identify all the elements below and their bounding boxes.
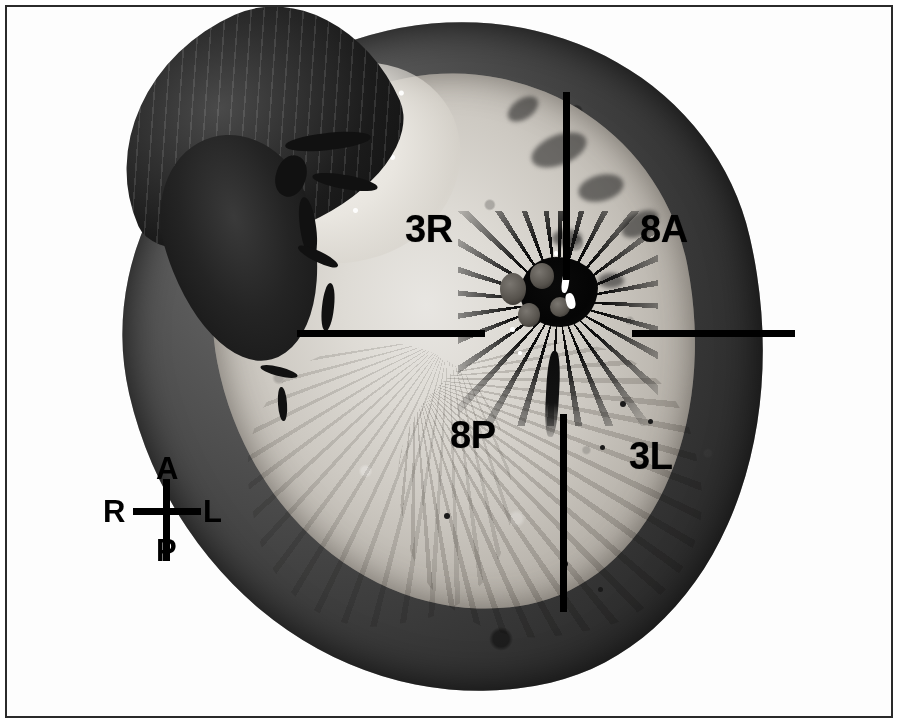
quadrant-label-lower-right: 3L (629, 437, 672, 475)
quadrant-label-upper-right: 8A (640, 210, 688, 248)
quadrant-label-lower-left: 8P (450, 416, 495, 454)
compass-label-right: R (103, 496, 125, 527)
compass-label-posterior: P (156, 535, 177, 566)
compass-cross-horizontal (133, 508, 201, 515)
photograph-plate: 3R 8A 8P 3L A R L P (7, 7, 891, 716)
figure-root: 3R 8A 8P 3L A R L P (0, 0, 903, 728)
specimen (100, 15, 800, 705)
tissue-dot (444, 513, 450, 519)
compass-label-anterior: A (156, 453, 178, 484)
hilum-nodule (530, 263, 554, 289)
axis-line-horizontal-left (297, 330, 485, 337)
hilum-highlight (518, 351, 522, 355)
hilum-nodule (500, 273, 526, 305)
axis-line-horizontal-right (632, 330, 795, 337)
hilum-highlight (510, 327, 515, 332)
stellate-hilum (458, 211, 658, 426)
orientation-compass: A R L P (103, 457, 233, 582)
axis-line-vertical-upper (563, 92, 570, 280)
quadrant-label-upper-left: 3R (405, 210, 453, 248)
axis-line-vertical-lower (560, 414, 567, 612)
tissue-dot (598, 587, 603, 592)
hilum-nodule (518, 303, 540, 327)
hilum-highlight (554, 251, 558, 256)
compass-label-left: L (203, 496, 222, 527)
tissue-dot (600, 445, 605, 450)
